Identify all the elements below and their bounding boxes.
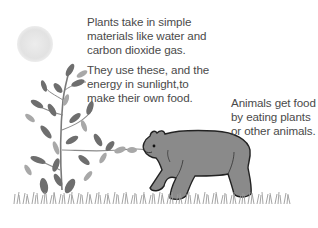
caption-line: carbon dioxide gas. [87,43,206,57]
caption-line: Animals get food [231,96,316,110]
caption-plants-energy: They use these, and the energy in sunlig… [87,63,209,105]
caption-line: They use these, and the [87,63,209,77]
sun-icon [17,26,53,62]
caption-animals: Animals get food by eating plants or oth… [231,96,316,138]
caption-line: make their own food. [87,91,209,105]
caption-line: materials like water and [87,29,206,43]
caption-line: Plants take in simple [87,15,206,29]
bear-illustration [143,131,251,200]
caption-line: by eating plants [231,110,316,124]
caption-line: or other animals. [231,124,316,138]
caption-plants-materials: Plants take in simple materials like wat… [87,15,206,57]
caption-line: energy in sunlight,to [87,77,209,91]
food-chain-diagram: Plants take in simple materials like wat… [0,0,318,228]
